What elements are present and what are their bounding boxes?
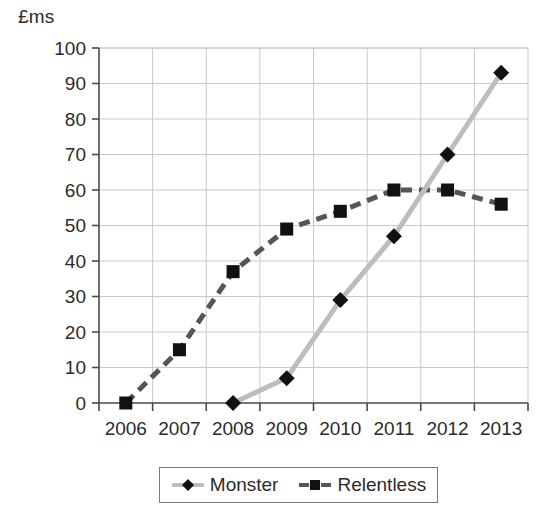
data-point-relentless-2010[interactable]: Relentless 2010: 54 — [334, 205, 347, 218]
y-tick-label: 100 — [54, 38, 86, 59]
data-point-relentless-2006[interactable]: Relentless 2006: 0 — [119, 397, 132, 410]
legend-item-relentless[interactable]: Relentless — [298, 474, 426, 496]
x-axis-tick-labels: 20062007200820092010201120122013 — [105, 418, 523, 439]
data-point-relentless-2008[interactable]: Relentless 2008: 37 — [227, 265, 240, 278]
data-point-relentless-2009[interactable]: Relentless 2009: 49 — [280, 223, 293, 236]
y-tick-label: 90 — [65, 73, 86, 94]
x-tick-label: 2008 — [212, 418, 254, 439]
chart-legend: Monster Relentless — [159, 467, 438, 503]
x-tick-label: 2013 — [480, 418, 522, 439]
x-tick-label: 2007 — [158, 418, 200, 439]
data-point-relentless-2013[interactable]: Relentless 2013: 56 — [495, 198, 508, 211]
y-tick-label: 30 — [65, 286, 86, 307]
y-tick-label: 70 — [65, 144, 86, 165]
x-axis-ticks — [99, 403, 528, 411]
square-marker-icon — [298, 478, 332, 492]
y-tick-label: 10 — [65, 357, 86, 378]
y-tick-label: 80 — [65, 109, 86, 130]
data-point-monster-2008[interactable]: Monster 2008: 0 — [225, 395, 241, 411]
y-tick-label: 40 — [65, 251, 86, 272]
chart-root: £ms 0102030405060708090100 2006200720082… — [0, 0, 551, 517]
legend-label-monster: Monster — [210, 474, 279, 496]
legend-item-monster[interactable]: Monster — [171, 474, 279, 496]
x-tick-label: 2009 — [266, 418, 308, 439]
y-axis-ticks — [92, 48, 99, 403]
y-tick-label: 50 — [65, 215, 86, 236]
data-point-relentless-2007[interactable]: Relentless 2007: 15 — [173, 343, 186, 356]
y-axis-tick-labels: 0102030405060708090100 — [54, 38, 86, 414]
y-tick-label: 20 — [65, 322, 86, 343]
x-tick-label: 2012 — [426, 418, 468, 439]
x-tick-label: 2006 — [105, 418, 147, 439]
x-tick-label: 2010 — [319, 418, 361, 439]
diamond-marker-icon — [171, 478, 205, 492]
y-tick-label: 60 — [65, 180, 86, 201]
x-tick-label: 2011 — [374, 418, 415, 439]
data-point-relentless-2011[interactable]: Relentless 2011: 60 — [387, 184, 400, 197]
data-point-relentless-2012[interactable]: Relentless 2012: 60 — [441, 184, 454, 197]
line-chart: 0102030405060708090100 20062007200820092… — [0, 0, 551, 517]
y-tick-label: 0 — [75, 393, 86, 414]
chart-plot-svg: 0102030405060708090100 20062007200820092… — [0, 0, 551, 460]
legend-label-relentless: Relentless — [337, 474, 426, 496]
